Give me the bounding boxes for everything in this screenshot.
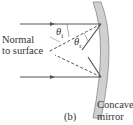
panel-label: (b) <box>64 111 76 122</box>
mirror-label-line2: mirror <box>97 111 124 122</box>
normal-label-line2: to surface <box>2 45 43 56</box>
mirror-label-line1: Concave <box>97 99 133 110</box>
angle-incident-label: θi <box>56 26 63 42</box>
angle-reflected-label: θr <box>74 36 82 52</box>
normal-label-line1: Normal <box>2 34 34 45</box>
reflected-ray-top <box>82 24 101 50</box>
